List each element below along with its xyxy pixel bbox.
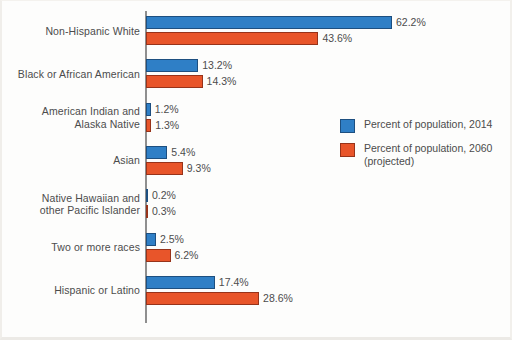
bar [146,249,171,262]
legend-label-2014: Percent of population, 2014 [364,118,492,131]
bar [146,233,156,246]
category-label: Non-Hispanic White [45,24,140,37]
bar-value-label: 1.3% [155,119,179,132]
bar-value-label: 17.4% [219,276,249,289]
legend-item-2014: Percent of population, 2014 [340,118,510,133]
bar-value-label: 13.2% [202,59,232,72]
bar [146,119,151,132]
bar [146,59,198,72]
bar-value-label: 62.2% [396,16,426,29]
bar [146,162,183,175]
legend-label-2060: Percent of population, 2060 (projected) [364,142,492,167]
bar-value-label: 0.3% [152,205,176,218]
bar-value-label: 28.6% [263,292,293,305]
bar-value-label: 2.5% [160,233,184,246]
bar-value-label: 5.4% [171,146,195,159]
chart-figure: Non-Hispanic White62.2%43.6%Black or Afr… [0,0,512,340]
bar-value-label: 14.3% [207,75,237,88]
category-label: Black or African American [18,68,140,81]
bar-value-label: 6.2% [175,249,199,262]
category-label: Two or more races [51,241,140,254]
legend-item-2060: Percent of population, 2060 (projected) [340,142,510,167]
bar-value-label: 1.2% [155,103,179,116]
bar [146,16,392,29]
bar [146,276,215,289]
legend-swatch-2060 [340,143,355,157]
bar-value-label: 43.6% [322,32,352,45]
bar [146,75,203,88]
bar [146,205,148,218]
bar [146,103,151,116]
category-label: Asian [113,154,140,167]
bar [146,189,148,202]
category-label: Native Hawaiian and other Pacific Island… [40,191,140,216]
bar-value-label: 0.2% [152,189,176,202]
bar [146,292,259,305]
bar [146,146,167,159]
bar-value-label: 9.3% [187,162,211,175]
chart-legend: Percent of population, 2014 Percent of p… [340,118,510,176]
bar [146,32,318,45]
legend-swatch-2014 [340,119,355,133]
category-label: American Indian and Alaska Native [42,105,140,130]
category-label: Hispanic or Latino [54,284,140,297]
